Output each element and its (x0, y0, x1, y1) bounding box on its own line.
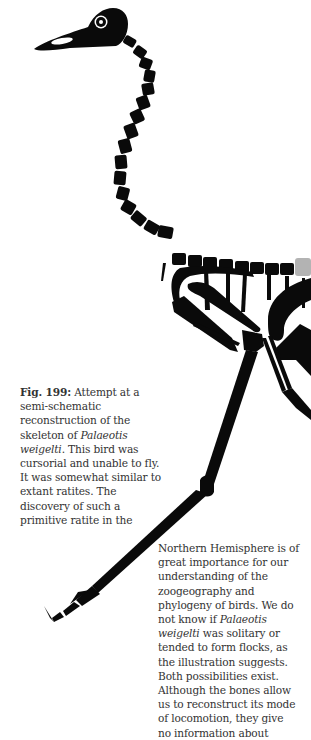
species-genus: Palaeotis (220, 613, 267, 625)
species-epithet: weigelti (20, 443, 62, 455)
body-paragraph: Northern Hemisphere is of great importan… (158, 541, 311, 740)
figure-label: Fig. 199: (20, 386, 71, 398)
figure-caption: Fig. 199: Attempt at a semi-schematic re… (20, 385, 160, 527)
species-epithet: weigelti (158, 627, 200, 639)
species-genus: Palaeotis (80, 429, 127, 441)
missing-vertebra (295, 258, 311, 276)
skull-icon (34, 8, 128, 51)
neck-vertebrae (113, 35, 174, 240)
